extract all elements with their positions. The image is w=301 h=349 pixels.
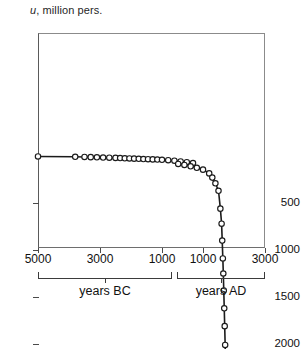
bracket-ad bbox=[177, 272, 265, 279]
y-tick-2000 bbox=[33, 344, 39, 345]
x-tick-label-ad-3000: 3000 bbox=[252, 252, 279, 266]
y-tick-label-500: 500 bbox=[266, 196, 300, 208]
bracket-nub-bc bbox=[105, 279, 106, 283]
y-tick-500 bbox=[33, 203, 39, 204]
group-label-ad: years AD bbox=[196, 284, 247, 298]
x-tick-label-ad-1000: 1000 bbox=[190, 252, 217, 266]
data-point bbox=[220, 256, 225, 261]
y-axis-title: u, million pers. bbox=[30, 4, 103, 16]
y-tick-label-2000: 2000 bbox=[266, 337, 300, 349]
y-axis-units: , million pers. bbox=[36, 4, 102, 16]
data-point bbox=[222, 342, 227, 347]
x-tick-label-bc-5000: 5000 bbox=[25, 252, 52, 266]
y-tick-1500 bbox=[33, 297, 39, 298]
group-label-bc: years BC bbox=[79, 284, 130, 298]
bracket-bc bbox=[38, 272, 172, 279]
plot-frame bbox=[38, 33, 265, 248]
bracket-nub-ad bbox=[221, 279, 222, 283]
data-point bbox=[222, 323, 227, 328]
y-tick-label-1500: 1500 bbox=[266, 290, 300, 302]
x-tick-label-bc-1000: 1000 bbox=[149, 252, 176, 266]
x-tick-label-bc-3000: 3000 bbox=[87, 252, 114, 266]
data-point bbox=[222, 306, 227, 311]
